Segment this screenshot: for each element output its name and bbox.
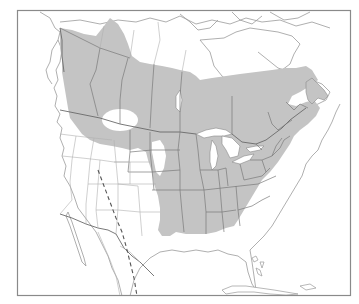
map-canvas [0,0,359,304]
range-map [0,0,359,304]
